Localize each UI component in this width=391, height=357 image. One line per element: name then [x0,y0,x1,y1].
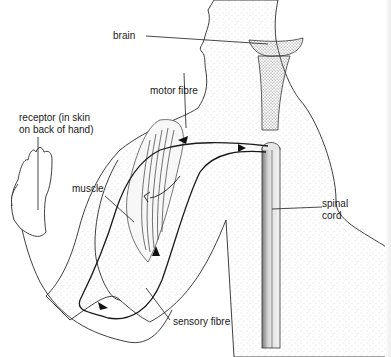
label-cord: cord [322,210,341,222]
body-outline [46,0,391,357]
label-receptor-line2: on back of hand) [19,124,94,136]
label-brain: brain [113,30,135,42]
diagram-artwork [0,0,391,357]
label-motor-fibre: motor fibre [150,85,198,97]
label-receptor-line1: receptor (in skin [19,112,90,124]
label-muscle: muscle [72,183,104,195]
page-edge-shadow [385,0,391,357]
hand [11,148,52,237]
label-spinal: spinal [322,198,348,210]
reflex-arc-diagram: brain motor fibre receptor (in skin on b… [0,0,391,357]
label-sensory-fibre: sensory fibre [173,316,230,328]
spinal-cord [262,143,280,349]
